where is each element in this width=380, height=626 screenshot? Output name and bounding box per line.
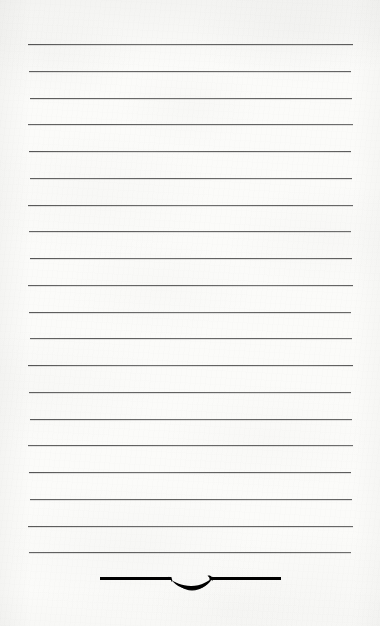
ruled-line	[28, 44, 353, 45]
ruled-line	[30, 419, 352, 420]
ruled-line	[29, 392, 351, 393]
ruled-lines-group	[0, 0, 380, 626]
ruled-line	[28, 526, 353, 527]
ruled-line	[29, 151, 351, 152]
ruled-line	[29, 552, 351, 553]
ruled-line	[30, 499, 352, 500]
ruled-line	[29, 71, 351, 72]
notepaper-page	[0, 0, 380, 626]
ruled-line	[28, 365, 353, 366]
ruled-line	[28, 124, 353, 125]
ruled-line	[30, 258, 352, 259]
ruled-line	[30, 98, 352, 99]
ruled-line	[29, 231, 351, 232]
ruled-line	[28, 445, 353, 446]
leaf-flourish-divider-icon	[100, 570, 281, 596]
ruled-line	[29, 472, 351, 473]
ruled-line	[29, 312, 351, 313]
ruled-line	[30, 338, 352, 339]
ruled-line	[28, 285, 353, 286]
ruled-line	[28, 205, 353, 206]
ruled-line	[30, 178, 352, 179]
